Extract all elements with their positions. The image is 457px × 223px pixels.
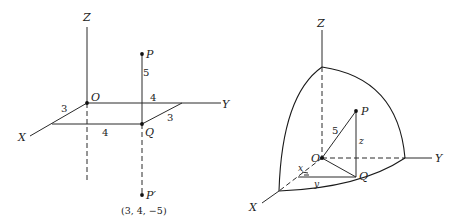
- right-oq-segment: [322, 158, 356, 177]
- right-x-component-label: x: [298, 163, 303, 173]
- left-base-right-edge: [142, 103, 182, 124]
- left-origin-label: O: [91, 91, 100, 104]
- left-origin-point: [85, 101, 89, 105]
- right-y-component-label: y: [313, 179, 320, 189]
- right-p-label: P: [360, 105, 369, 118]
- diagram-canvas: Z Y X O P Q P′ (3, 4, −5) 3 4 3 4 5: [0, 0, 457, 223]
- right-y-label: Y: [435, 152, 444, 165]
- right-origin-point: [320, 156, 324, 160]
- right-origin-label: O: [311, 152, 320, 165]
- left-ox-side-label: 3: [61, 103, 67, 114]
- left-q-point: [140, 122, 144, 126]
- right-z-component-label: z: [358, 136, 364, 146]
- left-pprime-coords: (3, 4, −5): [121, 205, 167, 216]
- left-far-x-side-label: 3: [167, 112, 173, 123]
- right-figure: Z Y X O P Q 5 z x y: [248, 17, 444, 214]
- left-q-label: Q: [145, 126, 154, 139]
- left-z-label: Z: [82, 11, 91, 24]
- right-op-length-label: 5: [332, 125, 338, 136]
- left-figure: Z Y X O P Q P′ (3, 4, −5) 3 4 3 4 5: [17, 11, 231, 216]
- left-p-point: [140, 52, 144, 56]
- left-pprime-point: [140, 193, 144, 197]
- right-op-segment: [322, 111, 356, 158]
- left-pq-length-label: 5: [143, 67, 149, 78]
- left-near-y-side-label: 4: [102, 127, 108, 138]
- right-p-point: [354, 109, 358, 113]
- left-oy-side-label: 4: [150, 92, 156, 103]
- left-x-label: X: [17, 131, 27, 144]
- right-q-label: Q: [359, 170, 368, 183]
- right-z-label: Z: [316, 17, 325, 30]
- right-x-axis: [262, 191, 279, 203]
- right-x-label: X: [248, 201, 258, 214]
- left-x-axis: [30, 103, 87, 136]
- left-pprime-label: P′: [145, 189, 156, 202]
- left-p-label: P: [145, 48, 154, 61]
- left-y-label: Y: [222, 98, 231, 111]
